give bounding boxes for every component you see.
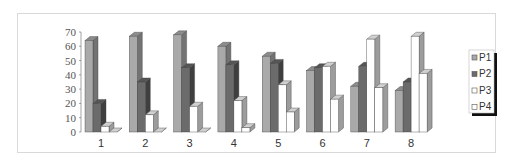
legend-swatch	[472, 72, 477, 77]
bar-p4-8	[419, 69, 432, 132]
y-tick-label: 50	[65, 55, 77, 67]
bar-p4-7	[375, 84, 388, 132]
bar-cluster-2	[129, 32, 166, 132]
legend-swatch	[472, 55, 477, 60]
legend: P1P2P3P4	[469, 50, 497, 116]
x-tick-label: 7	[364, 137, 370, 149]
bar-p3-2	[145, 111, 158, 132]
legend-label: P1	[479, 52, 492, 63]
bar-cluster-7	[351, 35, 388, 132]
bar-cluster-3	[174, 31, 211, 132]
x-tick-label: 5	[275, 137, 281, 149]
y-tick-label: 10	[65, 112, 77, 124]
x-tick-label: 8	[408, 137, 414, 149]
x-tick-label: 2	[142, 137, 148, 149]
bar-series-group	[85, 31, 432, 132]
y-tick-label: 0	[71, 126, 77, 138]
y-tick-label: 40	[65, 69, 77, 81]
legend-swatch	[472, 88, 477, 93]
bar-cluster-5	[262, 52, 299, 132]
legend-label: P3	[479, 85, 492, 96]
bar-chart: 010203040506070 12345678 P1P2P3P4	[0, 0, 508, 168]
y-tick-label: 30	[65, 83, 77, 95]
bar-p4-5	[286, 108, 299, 132]
bar-cluster-1	[85, 37, 122, 132]
x-tick-label: 4	[231, 137, 237, 149]
legend-swatch	[472, 105, 477, 110]
bar-p3-3	[190, 102, 203, 132]
x-tick-label: 1	[98, 137, 104, 149]
y-tick-label: 70	[65, 26, 77, 38]
bar-cluster-6	[307, 62, 344, 132]
y-axis: 010203040506070	[65, 26, 81, 138]
bar-p4-6	[331, 95, 344, 132]
bar-cluster-4	[218, 42, 255, 132]
x-tick-label: 3	[187, 137, 193, 149]
bar-cluster-8	[395, 32, 432, 132]
legend-label: P4	[479, 101, 492, 112]
x-tick-label: 6	[319, 137, 325, 149]
legend-label: P2	[479, 68, 492, 79]
x-axis: 12345678	[98, 137, 414, 149]
y-tick-label: 60	[65, 40, 77, 52]
y-tick-label: 20	[65, 97, 77, 109]
